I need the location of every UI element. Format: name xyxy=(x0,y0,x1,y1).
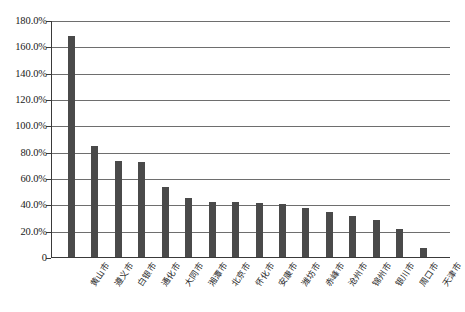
x-axis-tick-label: 潍坊市 xyxy=(300,261,323,288)
x-axis-tick-label: 白银市 xyxy=(136,261,159,288)
y-axis-tick-label: 60.0% xyxy=(0,174,47,184)
bar xyxy=(279,204,286,257)
y-axis-tick-mark xyxy=(46,21,51,22)
x-axis-tick-label: 周口市 xyxy=(418,261,441,288)
bar xyxy=(326,212,333,257)
y-axis-tick-mark xyxy=(46,47,51,48)
y-axis-tick-mark xyxy=(46,100,51,101)
x-axis-tick-label: 安康市 xyxy=(277,261,300,288)
x-axis-tick-label: 锦州市 xyxy=(371,261,394,288)
x-axis-tick-label: 银川市 xyxy=(394,261,417,288)
bar xyxy=(138,162,145,257)
y-axis-tick-label: 20.0% xyxy=(0,227,47,237)
y-axis-tick-mark xyxy=(46,126,51,127)
y-axis-tick-mark xyxy=(46,153,51,154)
bar xyxy=(185,198,192,257)
bar xyxy=(68,36,75,257)
x-axis-tick-label: 大同市 xyxy=(183,261,206,288)
bar-series xyxy=(52,21,450,257)
plot-area xyxy=(51,21,450,258)
y-axis-tick-mark xyxy=(46,232,51,233)
x-axis-tick-label: 天津市 xyxy=(441,261,464,288)
y-axis-tick-label: 100.0% xyxy=(0,121,47,131)
y-axis-tick-mark xyxy=(46,179,51,180)
x-axis-tick-label: 湘潭市 xyxy=(206,261,229,288)
bar xyxy=(420,248,427,257)
y-axis-tick-label: 180.0% xyxy=(0,16,47,26)
y-axis-tick-label: 120.0% xyxy=(0,95,47,105)
bar xyxy=(373,220,380,257)
y-axis-tick-mark xyxy=(46,205,51,206)
bar xyxy=(91,146,98,257)
x-axis-tick-label: 北京市 xyxy=(230,261,253,288)
bar xyxy=(115,161,122,257)
bar xyxy=(349,216,356,257)
bar xyxy=(396,229,403,257)
y-axis-tick-label: 140.0% xyxy=(0,69,47,79)
bar xyxy=(232,202,239,257)
x-axis-labels: 黄山市遵义市白银市通化市大同市湘潭市北京市怀化市安康市潍坊市赤峰市沧州市锦州市银… xyxy=(51,259,450,301)
bar xyxy=(209,202,216,257)
bar-chart-figure: 020.0%40.0%60.0%80.0%100.0%120.0%140.0%1… xyxy=(0,0,465,312)
bar xyxy=(162,187,169,257)
bar xyxy=(302,208,309,257)
bar xyxy=(256,203,263,257)
y-axis-tick-label: 80.0% xyxy=(0,148,47,158)
y-axis-tick-mark xyxy=(46,74,51,75)
y-axis-tick-label: 40.0% xyxy=(0,200,47,210)
x-axis-tick-label: 黄山市 xyxy=(89,261,112,288)
x-axis-tick-label: 赤峰市 xyxy=(324,261,347,288)
x-axis-tick-label: 怀化市 xyxy=(253,261,276,288)
y-axis-tick-label: 160.0% xyxy=(0,42,47,52)
x-axis-tick-label: 沧州市 xyxy=(347,261,370,288)
x-axis-tick-label: 通化市 xyxy=(160,261,183,288)
x-axis-tick-label: 遵义市 xyxy=(113,261,136,288)
y-axis-tick-label: 0 xyxy=(0,253,47,263)
